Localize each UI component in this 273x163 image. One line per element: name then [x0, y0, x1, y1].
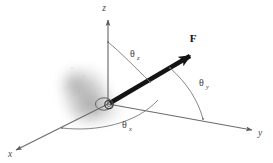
arc-theta-y-start-tick — [169, 67, 171, 69]
force-vector-label: F — [190, 32, 197, 44]
force-vector-F — [110, 56, 190, 103]
theta-x-subscript: x — [128, 125, 132, 132]
theta-z-subscript: z — [136, 54, 140, 61]
axis-label-z: z — [101, 3, 106, 13]
angle-label-theta-x: θ x — [122, 119, 132, 132]
arc-theta-y — [170, 68, 203, 119]
arc-theta-x-start-tick — [61, 127, 63, 129]
theta-y-subscript: y — [205, 83, 209, 90]
force-direction-angles-figure: z x y F θ z θ y θ x — [0, 0, 273, 163]
figure-canvas: z x y F θ z θ y θ x — [0, 0, 273, 163]
angle-label-theta-y: θ y — [199, 77, 209, 90]
angle-label-theta-z: θ z — [130, 48, 140, 61]
theta-y-symbol: θ — [199, 77, 204, 88]
theta-x-symbol: θ — [122, 119, 127, 130]
theta-z-symbol: θ — [130, 48, 135, 59]
arc-theta-y-end-tick — [202, 118, 204, 120]
arc-theta-z-start-tick — [107, 41, 109, 43]
arc-theta-z-end-tick — [149, 81, 151, 83]
arc-theta-z — [108, 42, 150, 82]
axis-label-x: x — [7, 149, 13, 159]
axis-label-y: y — [257, 128, 263, 138]
